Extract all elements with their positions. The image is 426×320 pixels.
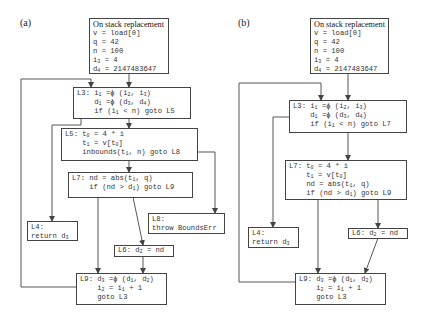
code-line: i3 = 4: [314, 56, 385, 65]
code-line: L7: t0 = 4 * i: [289, 162, 403, 171]
code-line: L8:: [152, 215, 221, 224]
code-line: q = 42: [314, 38, 385, 47]
a-node-L6: L6: d2 = nd: [114, 245, 174, 257]
code-line: t1 = v[t0]: [289, 171, 403, 180]
code-line: inbounds(t1, n) goto L8: [65, 148, 194, 157]
code-line: t1 = v[t0]: [65, 139, 194, 148]
osr-title: On stack replacement: [314, 20, 385, 29]
code-line: L6: d2 = nd: [352, 229, 404, 238]
code-line: goto L3: [299, 293, 382, 302]
b-node-osr: On stack replacement v = load[0] q = 42 …: [310, 18, 389, 74]
code-line: if (i1 < n) goto L7: [293, 120, 403, 129]
code-line: i2 = i1 + 1: [299, 284, 382, 293]
code-line: if (i1 < n) goto L5: [77, 107, 187, 116]
code-line: L6: d2 = nd: [118, 246, 170, 255]
code-line: n = 100: [93, 47, 165, 56]
code-line: return d3: [252, 238, 295, 247]
code-line: v = load[0]: [314, 29, 385, 38]
a-node-L3: L3: i1 =ϕ (i2, i3) d1 =ϕ (d3, d4) if (i1…: [73, 87, 191, 119]
panel-b-label: (b): [238, 17, 250, 28]
code-line: L9: d3 =ϕ (d1, d2): [80, 275, 163, 284]
b-node-L7: L7: t0 = 4 * i t1 = v[t0] nd = abs(t1, q…: [285, 160, 407, 200]
code-line: if (nd > d1) goto L9: [72, 183, 189, 192]
code-line: L3: i1 =ϕ (i2, i3): [77, 89, 187, 98]
code-line: L4:: [252, 229, 295, 238]
osr-title: On stack replacement: [93, 20, 165, 29]
code-line: L7: nd = abs(t1, q): [72, 174, 189, 183]
code-line: L4:: [31, 223, 74, 232]
code-line: d4 = 2147483647: [314, 65, 385, 74]
edge-b-L6-L9: [365, 238, 378, 273]
panel-a-label: (a): [20, 17, 31, 28]
code-line: n = 100: [314, 47, 385, 56]
code-line: throw BoundsErr: [152, 224, 221, 233]
b-node-L4: L4: return d3: [248, 227, 299, 248]
edge-a-L5-L8: [197, 152, 215, 213]
code-line: return d3: [31, 232, 74, 241]
a-node-osr: On stack replacement v = load[0] q = 42 …: [89, 18, 169, 74]
code-line: i3 = 4: [93, 56, 165, 65]
code-line: L9: d3 =ϕ (d1, d2): [299, 275, 382, 284]
a-node-L5: L5: t0 = 4 * i t1 = v[t0] inbounds(t1, n…: [61, 128, 198, 161]
code-line: v = load[0]: [93, 29, 165, 38]
b-node-L6: L6: d2 = nd: [348, 228, 408, 239]
a-node-L9: L9: d3 =ϕ (d1, d2) i2 = i1 + 1 goto L3: [76, 273, 167, 305]
b-node-L9: L9: d3 =ϕ (d1, d2) i2 = i1 + 1 goto L3: [295, 273, 386, 305]
a-node-L4: L4: return d3: [27, 221, 78, 241]
a-node-L7: L7: nd = abs(t1, q) if (nd > d1) goto L9: [68, 172, 193, 198]
code-line: q = 42: [93, 38, 165, 47]
code-line: d1 =ϕ (d3, d4): [293, 111, 403, 120]
edge-a-L7-L6: [133, 197, 143, 245]
code-line: if (nd > d1) goto L9: [289, 189, 403, 198]
code-line: d4 = 2147483647: [93, 65, 165, 74]
code-line: i2 = i1 + 1: [80, 284, 163, 293]
code-line: nd = abs(t1, q): [289, 180, 403, 189]
code-line: L5: t0 = 4 * i: [65, 130, 194, 139]
b-node-L3: L3: i1 =ϕ (i2, i3) d1 =ϕ (d3, d4) if (i1…: [289, 100, 407, 133]
code-line: L3: i1 =ϕ (i2, i3): [293, 102, 403, 111]
a-node-L8: L8: throw BoundsErr: [148, 213, 225, 234]
code-line: goto L3: [80, 293, 163, 302]
code-line: d1 =ϕ (d3, d4): [77, 98, 187, 107]
